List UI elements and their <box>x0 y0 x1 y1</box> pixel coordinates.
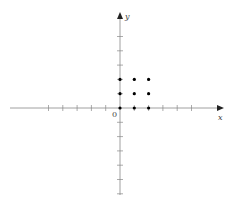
lattice-point <box>118 106 121 109</box>
origin-label: 0 <box>112 110 117 119</box>
lattice-point <box>133 92 136 95</box>
axes <box>10 12 224 195</box>
lattice-point <box>133 106 136 109</box>
lattice-point <box>118 78 121 81</box>
lattice-point <box>147 106 150 109</box>
lattice-point <box>147 92 150 95</box>
y-arrow-icon <box>117 12 123 19</box>
coordinate-plane: x y 0 <box>0 0 236 205</box>
lattice-point <box>147 78 150 81</box>
lattice-point <box>118 92 121 95</box>
x-arrow-icon <box>217 105 224 111</box>
y-axis-label: y <box>124 12 130 21</box>
lattice-point <box>133 78 136 81</box>
lattice-points <box>118 78 150 110</box>
x-axis-label: x <box>218 113 223 122</box>
